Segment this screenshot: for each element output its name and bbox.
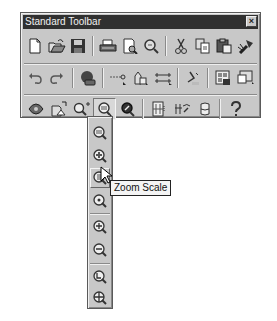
copy-button[interactable] (192, 35, 214, 57)
zoom-window-flyout-button[interactable] (90, 123, 110, 143)
separator (165, 36, 167, 56)
aerial-view-icon (151, 101, 167, 117)
paste-icon (216, 38, 232, 54)
snap-icon (131, 70, 149, 86)
zoom-flyout (87, 116, 113, 309)
flyout-separator (90, 263, 110, 265)
zoom-in-flyout-button[interactable] (90, 217, 110, 237)
separator (207, 68, 209, 88)
toolbar-title: Standard Toolbar (25, 16, 101, 27)
separator (102, 68, 104, 88)
zoom-extents-icon (92, 290, 108, 306)
redo-button[interactable] (46, 67, 68, 89)
print-preview-icon (122, 38, 138, 54)
open-button[interactable] (46, 35, 68, 57)
zoom-realtime-icon (50, 101, 68, 117)
zoom-flyout-icon (97, 101, 113, 117)
toolbar-row-2 (24, 63, 257, 92)
redo-icon (50, 72, 64, 84)
cut-icon (174, 38, 188, 54)
separator (142, 99, 144, 119)
help-button[interactable] (224, 98, 247, 120)
toolbar-titlebar[interactable]: Standard Toolbar × (23, 15, 258, 29)
zoom-window-icon (73, 101, 91, 117)
design-center-button[interactable] (235, 67, 257, 89)
toolbar-row-3 (24, 94, 257, 123)
print-button[interactable] (97, 35, 119, 57)
flyout-separator (90, 213, 110, 215)
save-button[interactable] (67, 35, 89, 57)
close-icon: × (249, 16, 254, 26)
web-button[interactable] (77, 67, 99, 89)
zoom-previous-icon (120, 101, 136, 117)
3d-viewpoint-icon (198, 101, 212, 117)
match-properties-icon (237, 38, 255, 54)
copy-icon (195, 38, 211, 54)
separator (92, 36, 94, 56)
print-preview-button[interactable] (119, 35, 141, 57)
find-button[interactable] (141, 35, 163, 57)
properties-button[interactable] (212, 67, 234, 89)
save-icon (70, 38, 86, 54)
separator (219, 99, 221, 119)
zoom-center-flyout-button[interactable] (90, 191, 110, 211)
close-button[interactable]: × (246, 16, 257, 27)
separator (177, 68, 179, 88)
tooltip: Zoom Scale (110, 180, 171, 196)
find-icon (143, 38, 159, 54)
named-views-icon (173, 101, 191, 117)
paste-button[interactable] (214, 35, 236, 57)
snap-button[interactable] (129, 67, 151, 89)
aerial-view-button[interactable] (147, 98, 170, 120)
cut-button[interactable] (170, 35, 192, 57)
ucs-button[interactable] (152, 67, 174, 89)
pan-realtime-icon (28, 102, 44, 116)
zoom-previous-button[interactable] (116, 98, 139, 120)
zoom-realtime-button[interactable] (47, 98, 70, 120)
separator (72, 68, 74, 88)
open-icon (48, 38, 66, 54)
zoom-out-flyout-button[interactable] (90, 240, 110, 260)
inquiry-icon (186, 70, 200, 86)
zoom-in-icon (92, 219, 108, 235)
properties-icon (215, 70, 231, 86)
toolbar-row-1 (24, 32, 257, 60)
help-icon (230, 101, 242, 117)
tracking-icon (109, 71, 127, 85)
3d-viewpoint-button[interactable] (193, 98, 216, 120)
design-center-icon (237, 70, 255, 86)
ucs-icon (154, 71, 172, 85)
named-views-button[interactable] (170, 98, 193, 120)
tracking-button[interactable] (107, 67, 129, 89)
zoom-all-flyout-button[interactable] (90, 267, 110, 287)
new-button[interactable] (24, 35, 46, 57)
zoom-dynamic-flyout-button[interactable] (90, 146, 110, 166)
pan-realtime-button[interactable] (24, 98, 47, 120)
zoom-all-icon (92, 269, 108, 285)
zoom-center-icon (92, 193, 108, 209)
match-properties-button[interactable] (235, 35, 257, 57)
print-icon (99, 38, 117, 54)
new-icon (28, 38, 42, 54)
undo-button[interactable] (24, 67, 46, 89)
zoom-window-icon (92, 125, 108, 141)
inquiry-button[interactable] (182, 67, 204, 89)
standard-toolbar: Standard Toolbar × (20, 12, 261, 118)
zoom-extents-flyout-button[interactable] (90, 288, 110, 308)
zoom-dynamic-icon (92, 148, 108, 164)
web-icon (79, 70, 97, 86)
zoom-out-icon (92, 242, 108, 258)
undo-icon (28, 72, 42, 84)
